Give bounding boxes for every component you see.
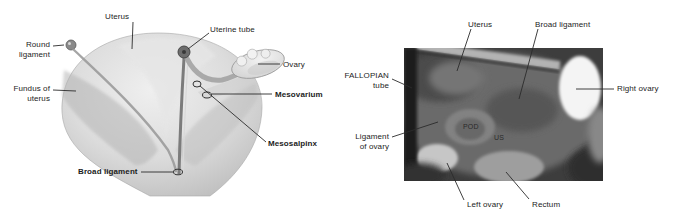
photo-rectum: [474, 151, 544, 183]
label-illustration-broad-ligament: Broad ligament: [78, 167, 138, 177]
photo-mid-fold: [486, 88, 558, 132]
label-illustration-fundus-of-uterus: Fundus of uterus: [8, 84, 50, 103]
label-illustration-mesosalpinx: Mesosalpinx: [268, 139, 317, 149]
label-illustration-uterus: Uterus: [105, 12, 129, 22]
label-photo-ligament-of-ovary: Ligament of ovary: [349, 132, 389, 151]
label-photo-right-ovary: Right ovary: [617, 84, 659, 94]
label-photo-pod: POD: [463, 123, 479, 130]
label-illustration-round-ligament: Round ligament: [10, 40, 50, 59]
label-illustration-ovary: Ovary: [283, 60, 305, 70]
photo-uterus-mound: [429, 61, 485, 95]
photo-left-strip: [404, 48, 417, 181]
label-photo-broad-ligament: Broad ligament: [535, 20, 590, 30]
anatomy-figure: Uterus Uterine tube Round ligament Ovary…: [0, 0, 673, 219]
label-illustration-uterine-tube: Uterine tube: [210, 25, 255, 35]
label-photo-uterus: Uterus: [468, 20, 492, 30]
photo-bottom-left-shadow: [395, 163, 445, 187]
label-photo-left-ovary: Left ovary: [467, 200, 503, 210]
label-photo-fallopian-tube: FALLOPIAN tube: [337, 71, 389, 90]
photo-panel: [392, 29, 628, 200]
label-photo-rectum: Rectum: [532, 200, 560, 210]
figure-artwork: [0, 0, 673, 219]
label-illustration-mesovarium: Mesovarium: [275, 90, 323, 100]
photo-right-fold: [588, 107, 612, 163]
round-ligament-highlight: [68, 42, 71, 45]
leader-round-ligament: [53, 45, 64, 46]
round-ligament-drawing: [66, 40, 76, 50]
uterine-tube-lumen: [182, 50, 186, 54]
label-photo-us: US: [494, 134, 504, 141]
